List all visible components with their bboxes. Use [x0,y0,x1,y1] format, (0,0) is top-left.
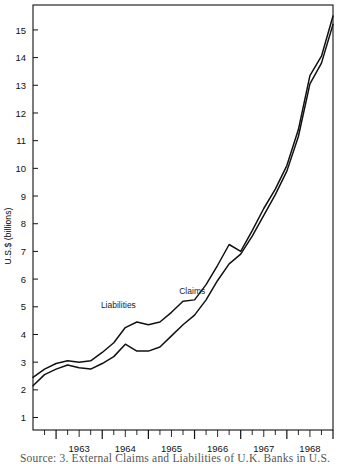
y-axis-tick-label: 6 [21,274,26,285]
y-axis-tick-label: 8 [21,218,26,229]
y-axis-tick-label: 1 [21,412,26,423]
x-axis-ticks: 196319641965196619671968 [45,430,333,454]
y-axis-tick-label: 15 [15,25,26,36]
y-axis-tick-label: 7 [21,246,26,257]
y-axis-tick-label: 9 [21,191,26,202]
y-axis-tick-label: 2 [21,384,26,395]
y-axis-tick-label: 13 [15,80,26,91]
y-axis-ticks: 123456789101112131415 [15,25,38,424]
series-line-claims [33,24,333,385]
y-axis-tick-label: 3 [21,357,26,368]
data-series-group [33,16,333,386]
y-axis-tick-label: 11 [16,135,26,146]
y-axis-tick-label: 14 [15,52,26,63]
annotation-claims: Claims [179,286,205,296]
line-chart: 123456789101112131415 196319641965196619… [0,0,350,464]
series-line-liabilities [33,16,333,377]
y-axis-tick-label: 12 [15,108,26,119]
y-axis-tick-label: 5 [21,301,26,312]
figure-caption: Source: 3. External Claims and Liabiliti… [0,452,350,464]
plot-border [33,5,333,430]
y-axis-tick-label: 4 [21,329,26,340]
figure-container: U.S.$ (billions) 123456789101112131415 1… [0,0,350,464]
y-axis-tick-label: 10 [15,163,26,174]
plot-frame [33,5,333,430]
series-annotations: LiabilitiesClaims [101,286,205,310]
annotation-liabilities: Liabilities [101,300,136,310]
